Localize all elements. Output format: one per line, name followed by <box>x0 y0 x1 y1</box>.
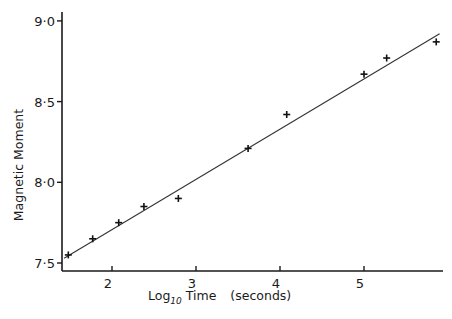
y-tick-label: 8·5 <box>34 95 55 110</box>
data-point-plus-icon <box>361 71 368 78</box>
fit-line <box>64 34 439 258</box>
y-tick-label: 8·0 <box>34 175 55 190</box>
data-point-plus-icon <box>383 55 390 62</box>
data-point-plus-icon <box>433 38 440 45</box>
data-points <box>65 38 440 258</box>
fitted-line <box>64 34 439 258</box>
data-point-plus-icon <box>175 195 182 202</box>
axis-labels: Log10 Time(seconds)Magnetic Moment <box>11 109 291 306</box>
x-tick-label: 2 <box>104 276 112 291</box>
data-point-plus-icon <box>283 111 290 118</box>
y-tick-label: 7·5 <box>34 256 55 271</box>
data-point-plus-icon <box>89 235 96 242</box>
x-axis-label: Log10 Time(seconds) <box>148 288 291 306</box>
data-point-plus-icon <box>115 219 122 226</box>
data-point-plus-icon <box>245 145 252 152</box>
y-tick-label: 9·0 <box>34 14 55 29</box>
y-axis-label: Magnetic Moment <box>11 109 26 221</box>
axes: 7·58·08·59·02345 <box>34 12 443 291</box>
x-tick-label: 5 <box>356 276 364 291</box>
chart: 7·58·08·59·02345 Log10 Time(seconds)Magn… <box>0 0 452 319</box>
